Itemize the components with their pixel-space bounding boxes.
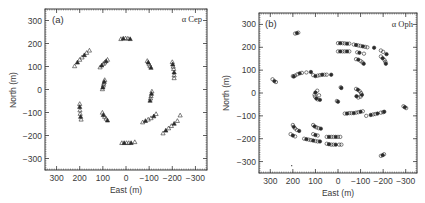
circle-marker — [383, 110, 386, 113]
circle-marker — [330, 73, 333, 76]
circle-marker — [385, 52, 388, 55]
series-lower-row-d — [325, 135, 342, 138]
triangle-marker — [154, 112, 158, 116]
series-top-cluster-mid — [354, 57, 365, 65]
x-tick-label: −100 — [140, 173, 159, 183]
y-tick-label: −100 — [23, 108, 42, 118]
series-upper-left-arc — [73, 48, 92, 67]
series-upper-left-pair — [293, 31, 300, 35]
circle-marker — [339, 135, 342, 138]
series-stray-dot — [291, 165, 292, 166]
circle-marker — [297, 129, 300, 132]
plot-b-svg: 3002001000−100−200−3003002001000−100−200… — [213, 0, 425, 203]
y-tick-label: −200 — [237, 134, 256, 144]
series-far-upper-right — [170, 60, 176, 80]
panel-label-a: (a) — [52, 14, 64, 25]
series-lower-right-arc — [161, 113, 182, 135]
circle-marker — [317, 94, 320, 97]
plot-a-points — [73, 36, 183, 144]
x-tick-label: 200 — [286, 176, 300, 186]
x-axis-title-a: East (m) — [110, 185, 142, 195]
x-tick-label: 200 — [73, 173, 87, 183]
panel-a-alpha-cep: 3002001000−100−200−3003002001000−100−200… — [0, 0, 212, 203]
plot-a-frame — [45, 9, 207, 170]
x-tick-label: 100 — [96, 173, 110, 183]
plot-b-ticks: 3002001000−100−200−3003002001000−100−200… — [237, 13, 417, 186]
y-tick-label: −200 — [23, 131, 42, 141]
circle-marker — [340, 143, 343, 146]
circle-marker — [305, 71, 308, 74]
circle-marker — [318, 140, 321, 143]
triangle-marker — [172, 76, 176, 80]
y-tick-label: 300 — [242, 19, 256, 29]
circle-marker — [365, 114, 368, 117]
y-tick-label: −100 — [237, 111, 256, 121]
plot-a-ticks: 3002001000−100−200−3003002001000−100−200… — [23, 9, 207, 183]
series-left-lower — [78, 102, 84, 121]
triangle-marker — [75, 60, 79, 64]
y-tick-label: −300 — [237, 157, 256, 167]
series-lower-mid-cluster — [311, 123, 322, 130]
plot-b-frame — [259, 13, 417, 173]
x-tick-label: 300 — [49, 173, 63, 183]
circle-marker — [358, 51, 361, 54]
x-tick-label: 0 — [124, 173, 129, 183]
circle-marker — [336, 100, 339, 103]
y-tick-label: −300 — [23, 154, 42, 164]
circle-marker — [325, 73, 328, 76]
series-right-pair — [402, 105, 408, 110]
plot-a-svg: 3002001000−100−200−3003002001000−100−200… — [0, 0, 212, 203]
y-tick-label: 0 — [37, 85, 42, 95]
series-left-pair — [271, 78, 278, 84]
series-lower-row-left — [343, 110, 364, 116]
plot-b-points — [271, 31, 408, 166]
series-center-right-arc — [354, 87, 363, 99]
series-inner-right — [148, 89, 154, 102]
series-bottom-right-pair — [379, 153, 386, 158]
y-axis-title-b: North (m) — [221, 75, 231, 111]
triangle-marker — [152, 114, 156, 118]
series-center-bottom — [335, 99, 340, 103]
circle-marker — [376, 112, 379, 115]
triangle-marker — [133, 140, 137, 144]
panel-b-alpha-oph: 3002001000−100−200−3003002001000−100−200… — [213, 0, 425, 203]
series-center-left-arc — [313, 89, 322, 102]
series-lower-row-c — [302, 137, 321, 143]
circle-marker — [372, 46, 375, 49]
circle-marker — [362, 62, 365, 65]
y-tick-label: 0 — [251, 88, 256, 98]
series-lower-row-a — [289, 132, 297, 138]
y-tick-label: 200 — [242, 42, 256, 52]
circle-marker — [334, 143, 337, 146]
circle-marker — [318, 98, 321, 101]
triangle-marker — [87, 48, 91, 52]
dot-marker — [291, 165, 292, 166]
circle-marker — [309, 70, 312, 73]
panel-label-b: (b) — [265, 18, 277, 29]
y-tick-label: 300 — [28, 16, 42, 26]
series-lower-left-cluster — [291, 123, 301, 132]
series-lower-row-e — [325, 142, 343, 146]
x-tick-label: 300 — [263, 176, 277, 186]
series-lower-row-b — [311, 132, 319, 137]
circle-marker — [366, 46, 369, 49]
y-tick-label: 100 — [242, 65, 256, 75]
triangle-marker — [175, 119, 179, 123]
x-tick-label: −300 — [186, 173, 205, 183]
series-top — [119, 36, 132, 40]
x-tick-label: −300 — [396, 176, 415, 186]
series-mid-row-right — [311, 73, 332, 78]
circle-marker — [340, 86, 343, 89]
series-inner-lower-right — [141, 112, 159, 124]
series-inner-upper-left — [98, 58, 110, 69]
series-inner-upper-right — [145, 59, 153, 70]
x-tick-label: −200 — [374, 176, 393, 186]
series-lower-row-right — [365, 110, 386, 118]
circle-marker — [355, 95, 358, 98]
series-center-top — [339, 86, 343, 90]
y-axis-title-a: North (m) — [8, 72, 18, 108]
x-axis-title-b: East (m) — [322, 188, 354, 198]
star-label-a: α Cep — [182, 14, 202, 24]
y-tick-label: 100 — [28, 62, 42, 72]
circle-marker — [362, 52, 365, 55]
